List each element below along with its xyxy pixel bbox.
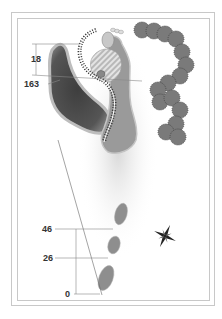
distance-label-46: 46 [42,225,52,234]
pin-area [97,71,105,78]
golf-hole-diagram [0,0,222,319]
distance-label-26: 26 [43,254,53,263]
distance-label-163: 163 [24,80,39,89]
green [102,32,114,48]
distance-label-0: 0 [65,290,70,299]
distance-label-18: 18 [31,55,41,64]
